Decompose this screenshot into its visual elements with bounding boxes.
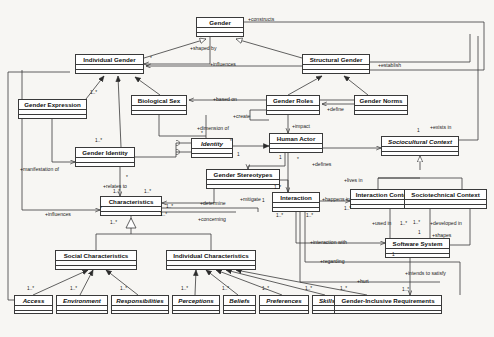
operation-compartment <box>56 266 136 271</box>
class-box-beliefs[interactable]: Beliefs <box>223 295 256 314</box>
operation-compartment <box>167 266 255 271</box>
operation-compartment <box>382 152 458 157</box>
class-box-characteristics[interactable]: Characteristics <box>100 196 162 216</box>
operation-compartment <box>386 254 449 259</box>
multiplicity: 1..* <box>344 206 351 211</box>
operation-compartment <box>19 115 86 120</box>
class-box-gender-stereotypes[interactable]: Gender Stereotypes <box>206 169 280 189</box>
edge-label-impact: +impact <box>292 123 310 129</box>
operation-compartment <box>173 311 219 316</box>
multiplicity: * <box>230 139 232 144</box>
class-name: Preferences <box>260 296 308 306</box>
class-box-gender[interactable]: Gender <box>196 17 244 37</box>
class-box-gender-roles[interactable]: Gender Roles <box>266 95 320 115</box>
multiplicity: 1..* <box>27 286 34 291</box>
multiplicity: 1..* <box>70 286 77 291</box>
edge-label-mitigate: +mitigate <box>240 196 261 202</box>
operation-compartment <box>76 70 143 75</box>
class-name: Characteristics <box>101 197 161 207</box>
class-name: Gender <box>197 18 243 28</box>
operation-compartment <box>15 311 52 316</box>
edge-label-influences-top: +influences <box>210 61 236 67</box>
edge-label-constructs: +constructs <box>248 16 274 22</box>
class-box-gender-norms[interactable]: Gender Norms <box>354 95 408 115</box>
edge-label-hurt: +hurt <box>357 278 369 284</box>
class-name: Gender Norms <box>355 96 407 106</box>
multiplicity: 1..* <box>144 189 151 194</box>
class-box-social-characteristics[interactable]: Social Characteristics <box>55 250 137 270</box>
class-name: Human Actor <box>270 134 322 144</box>
multiplicity: 1 <box>417 128 420 133</box>
multiplicity: 1 <box>418 230 421 235</box>
edge-label-defines: +defines <box>312 161 331 167</box>
class-name: Gender Expression <box>19 100 86 110</box>
class-name: Responsibilities <box>112 296 168 306</box>
class-box-individual-gender[interactable]: Individual Gender <box>75 54 144 74</box>
class-box-preferences[interactable]: Preferences <box>259 295 309 314</box>
class-box-gender-identity[interactable]: Gender Identity <box>75 147 135 167</box>
multiplicity: 1..* <box>276 213 283 218</box>
operation-compartment <box>101 212 161 217</box>
class-box-identity[interactable]: Identity <box>191 138 233 158</box>
operation-compartment <box>270 149 322 154</box>
class-name: Social Characteristics <box>56 251 136 261</box>
class-name: Access <box>15 296 52 306</box>
multiplicity: 1 <box>392 252 395 257</box>
multiplicity: * <box>126 175 128 180</box>
edge-label-regarding: +regarding <box>320 258 345 264</box>
multiplicity: 1..* <box>306 213 313 218</box>
class-box-gender-inclusive-requirements[interactable]: Gender-Inclusive Requirements <box>334 295 442 314</box>
class-box-sociocultural-context[interactable]: Sociocultural Context <box>381 136 459 156</box>
operation-compartment <box>76 163 134 168</box>
class-box-perceptions[interactable]: Perceptions <box>172 295 220 314</box>
class-box-individual-characteristics[interactable]: Individual Characteristics <box>166 250 256 270</box>
operation-compartment <box>112 311 168 316</box>
operation-compartment <box>57 311 107 316</box>
class-box-structural-gender[interactable]: Structural Gender <box>302 54 370 74</box>
class-name: Sociotechnical Context <box>405 190 486 200</box>
class-box-biological-sex[interactable]: Biological Sex <box>131 95 187 115</box>
edge-label-shapes: +shapes <box>432 232 451 238</box>
class-name: Gender Stereotypes <box>207 170 279 180</box>
class-box-gender-expression[interactable]: Gender Expression <box>18 99 87 119</box>
edge-label-happens-in: +happens in <box>322 196 350 202</box>
edge-label-manifestation-of: +manifestation of <box>20 166 59 172</box>
class-box-access[interactable]: Access <box>14 295 53 314</box>
class-name: Biological Sex <box>132 96 186 106</box>
edge-label-used-in: +used in <box>372 220 391 226</box>
multiplicity: 1..* <box>400 221 407 226</box>
multiplicity: 1..* <box>413 220 420 225</box>
edge-label-create: +create <box>233 113 250 119</box>
edge-label-lives-in: +lives in <box>344 177 363 183</box>
multiplicity: 1 <box>262 198 265 203</box>
multiplicity: 1..* <box>110 220 117 225</box>
class-name: Perceptions <box>173 296 219 306</box>
class-name: Identity <box>192 139 232 149</box>
multiplicity: 1..* <box>340 286 347 291</box>
edge-label-establish: +establish <box>378 62 401 68</box>
class-name: Environment <box>57 296 107 306</box>
class-name: Gender Identity <box>76 148 134 158</box>
operation-compartment <box>207 185 279 190</box>
class-box-interaction[interactable]: Interaction <box>272 192 320 212</box>
class-name: Gender Roles <box>267 96 319 106</box>
edge-label-shaped-by: +shaped by <box>190 45 216 51</box>
operation-compartment <box>197 33 243 38</box>
multiplicity: * <box>297 157 299 162</box>
edge-label-determine: +determine <box>200 200 226 206</box>
operation-compartment <box>355 111 407 116</box>
operation-compartment <box>260 311 308 316</box>
operation-compartment <box>335 311 441 316</box>
class-box-environment[interactable]: Environment <box>56 295 108 314</box>
multiplicity: 1..* <box>305 286 312 291</box>
class-box-responsibilities[interactable]: Responsibilities <box>111 295 169 314</box>
class-box-human-actor[interactable]: Human Actor <box>269 133 323 153</box>
class-box-sociotechnical-context[interactable]: Sociotechnical Context <box>404 189 487 209</box>
multiplicity: 1..* <box>113 189 120 194</box>
operation-compartment <box>267 111 319 116</box>
class-name: Gender-Inclusive Requirements <box>335 296 441 306</box>
multiplicity: 1..* <box>90 90 97 95</box>
class-name: Interaction <box>273 193 319 203</box>
class-name: Individual Gender <box>76 55 143 65</box>
multiplicity: 1..* <box>222 286 229 291</box>
